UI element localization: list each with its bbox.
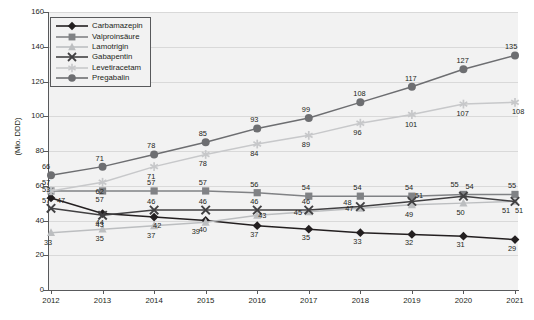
y-tick [43,47,48,48]
point-value-label: 89 [302,141,310,148]
point-value-label: 54 [353,184,361,191]
gridline [49,116,518,117]
y-tick-label: 120 [18,78,44,86]
x-tick-label: 2017 [289,297,329,305]
point-value-label: 49 [405,211,413,218]
point-value-label: 43 [258,212,266,219]
point-value-label: 71 [147,173,155,180]
legend-item-pregabalin[interactable]: Pregabalin [55,73,143,83]
point-value-label: 101 [405,121,417,128]
legend-label: Carbamazepin [92,22,143,30]
point-value-label: 57 [199,179,207,186]
y-tick [43,12,48,13]
x-tick [309,290,310,294]
point-value-label: 46 [302,198,310,205]
y-tick-label: 40 [18,217,44,225]
y-tick-label: 100 [18,112,44,120]
point-value-label: 108 [353,90,365,97]
point-value-label: 50 [456,209,464,216]
point-value-label: 135 [505,43,517,50]
point-value-label: 78 [147,142,155,149]
point-value-label: 71 [96,155,104,162]
point-value-label: 43 [96,221,104,228]
point-value-label: 40 [199,226,207,233]
x-tick-label: 2014 [134,297,174,305]
point-value-label: 57 [42,197,50,204]
y-tick-label: 0 [18,286,44,294]
point-value-label: 127 [456,57,468,64]
gridline [49,186,518,187]
point-value-label: 32 [405,239,413,246]
x-tick [51,290,52,294]
y-tick-label: 60 [18,182,44,190]
x-tick-label: 2018 [340,297,380,305]
x-tick-label: 2016 [237,297,277,305]
x-tick-label: 2019 [392,297,432,305]
legend-marker-diamond-icon [55,21,89,31]
x-tick-label: 2012 [31,297,71,305]
y-tick-label: 80 [18,147,44,155]
gridline [49,221,518,222]
legend-marker-cross-icon [55,52,89,62]
point-value-label: 55 [508,182,516,189]
point-value-label: 54 [302,184,310,191]
marker-square [69,33,76,40]
point-value-label: 46 [147,198,155,205]
legend-item-valproinsäure[interactable]: Valproinsäure [55,31,143,41]
x-tick [257,290,258,294]
legend-label: Lamotrigin [92,43,128,51]
y-tick-label: 20 [18,251,44,259]
point-value-label: 45 [294,209,302,216]
point-value-label: 37 [250,231,258,238]
gridline [49,151,518,152]
point-value-label: 96 [353,129,361,136]
x-tick [463,290,464,294]
legend-item-gabapentin[interactable]: Gabapentin [55,52,143,62]
legend-marker-square-icon [55,32,89,42]
point-value-label: 29 [508,245,516,252]
point-value-label: 107 [456,110,468,117]
gridline [49,255,518,256]
point-value-label: 99 [302,106,310,113]
point-value-label: 78 [199,160,207,167]
point-value-label: 33 [44,239,52,246]
legend-marker-asterisk-icon [55,63,89,73]
chart-legend: CarbamazepinValproinsäureLamotriginGabap… [50,17,151,87]
point-value-label: 35 [96,235,104,242]
point-value-label: 117 [405,75,417,82]
x-tick [154,290,155,294]
chart-root: 020406080100120140160 (Mio. DDD) 5344424… [0,0,534,320]
point-value-label: 53 [42,186,50,193]
legend-item-carbamazepin[interactable]: Carbamazepin [55,21,143,31]
point-value-label: 47 [57,197,65,204]
point-value-label: 51 [515,207,523,214]
legend-label: Levetiracetam [92,64,141,72]
y-tick [43,221,48,222]
y-tick [43,151,48,152]
point-value-label: 84 [250,150,258,157]
point-value-label: 108 [512,108,524,115]
point-value-label: 93 [250,116,258,123]
y-axis-title: (Mio. DDD) [13,102,22,172]
point-value-label: 51 [502,207,510,214]
y-tick [43,290,48,291]
x-tick-label: 2021 [495,297,534,305]
point-value-label: 54 [405,184,413,191]
point-value-label: 48 [343,199,351,206]
point-value-label: 57 [96,196,104,203]
x-tick [412,290,413,294]
point-value-label: 33 [353,238,361,245]
y-tick-label: 140 [18,43,44,51]
point-value-label: 85 [199,130,207,137]
marker-diamond [68,22,76,30]
y-tick [43,186,48,187]
point-value-label: 46 [199,198,207,205]
legend-item-levetiracetam[interactable]: Levetiracetam [55,63,143,73]
y-tick [43,116,48,117]
x-tick [515,290,516,294]
point-value-label: 62 [96,188,104,195]
gridline [49,12,518,13]
point-value-label: 42 [153,222,161,229]
legend-item-lamotrigin[interactable]: Lamotrigin [55,42,143,52]
point-value-label: 56 [250,181,258,188]
